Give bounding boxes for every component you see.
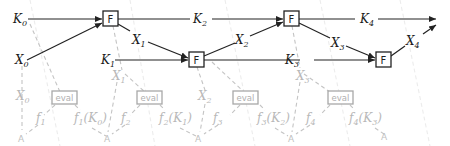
lower-label-x3: X3 [295, 69, 310, 85]
lower-label-x0: X0 [15, 89, 30, 105]
label-k4: K4 [359, 12, 374, 28]
main-wires [27, 19, 436, 60]
label-k0: K0 [12, 12, 27, 28]
f-box-4: F [376, 52, 391, 67]
adversary-mark-4: A [288, 134, 295, 144]
label-f1: f1 [35, 111, 46, 127]
label-f1-k0: f1(K0) [73, 111, 107, 127]
label-k1: K1 [100, 53, 115, 69]
svg-text:F: F [108, 14, 114, 25]
svg-text:eval: eval [56, 93, 74, 103]
f-box-1: F [103, 11, 118, 26]
svg-text:F: F [381, 55, 387, 66]
svg-text:eval: eval [332, 93, 350, 103]
eval-box-3: eval [233, 91, 258, 104]
label-f3: f3 [212, 111, 223, 127]
svg-text:F: F [194, 55, 200, 66]
adversary-mark-5: A [381, 132, 388, 142]
label-f2: f2 [120, 111, 131, 127]
svg-text:eval: eval [141, 93, 159, 103]
eval-box-2: eval [137, 91, 162, 104]
lower-label-x2: X2 [197, 89, 212, 105]
f-box-2: F [189, 52, 204, 67]
adversary-mark-2: A [104, 134, 111, 144]
label-x1: X1 [131, 33, 146, 49]
eval-box-4: eval [328, 91, 353, 104]
label-k3: K3 [284, 53, 299, 69]
adversary-mark-1: A [18, 134, 25, 144]
label-x4: X4 [405, 34, 420, 50]
svg-text:F: F [289, 14, 295, 25]
label-f4: f4 [305, 111, 316, 127]
f-box-3: F [284, 11, 299, 26]
lower-label-x1: X1 [111, 69, 126, 85]
label-x2: X2 [234, 33, 249, 49]
label-f2-k1: f2(K1) [158, 111, 192, 127]
label-x3: X3 [330, 36, 345, 52]
adversary-mark-3: A [195, 134, 202, 144]
label-k2: K2 [192, 12, 207, 28]
label-x0: X0 [14, 53, 29, 69]
label-f3-k2: f3(K2) [256, 111, 290, 127]
cascade-diagram: F F F F K0 K1 K2 K3 K4 X0 X1 X2 X3 X4 X0… [0, 0, 450, 146]
label-f4-k3: f4(K3) [348, 111, 382, 127]
svg-text:eval: eval [237, 93, 255, 103]
eval-box-1: eval [52, 91, 77, 104]
